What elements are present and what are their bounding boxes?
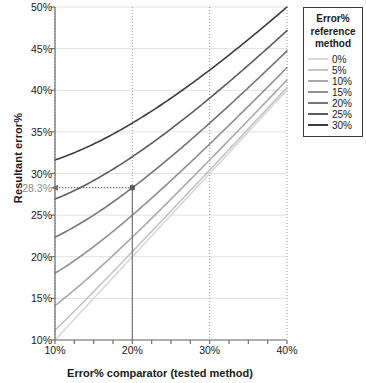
chart-root: Resultant error% Error% comparator (test… [0,0,366,383]
y-axis-tick-label: 45% [0,44,52,54]
legend-title-line-3: method [307,38,359,51]
legend-title-line-1: Error% [307,13,359,26]
series-line-20pct [55,51,287,237]
legend-item-label: 25% [332,109,352,120]
legend-item: 30% [307,120,359,131]
x-axis-tick-label: 20% [112,344,152,356]
y-axis-tick-label: 30% [0,169,52,179]
legend-item-label: 15% [332,87,352,98]
y-axis-tick-label: 40% [0,85,52,95]
legend-title: Error% reference method [307,13,359,51]
x-axis-tick-label: 40% [267,344,307,356]
legend-item: 10% [307,76,359,87]
legend-swatch-line-icon [308,69,328,71]
y-axis-tick-label: 50% [0,2,52,12]
x-axis-tick-label: 30% [190,344,230,356]
legend-swatch-line-icon [308,58,328,60]
legend-item-label: 0% [332,54,346,65]
series-line-5pct [55,88,287,331]
y-axis-tick-label: 15% [0,293,52,303]
legend-item: 5% [307,65,359,76]
legend-item: 25% [307,109,359,120]
legend-swatch-line-icon [308,80,328,82]
legend-item-label: 5% [332,65,346,76]
x-axis-title: Error% comparator (tested method) [30,367,290,379]
legend-item: 0% [307,54,359,65]
annotation-point-marker [130,185,135,190]
legend-item-label: 20% [332,98,352,109]
annotation-value-label: 28.3% [0,183,52,193]
legend-box: Error% reference method 0%5%10%15%20%25%… [303,7,363,137]
legend-item: 20% [307,98,359,109]
legend-item-label: 30% [332,120,352,131]
y-axis-tick-label: 20% [0,252,52,262]
legend-swatch-line-icon [308,102,328,104]
legend-swatch-line-icon [308,91,328,93]
x-axis-tick-label: 10% [35,344,75,356]
series-line-10pct [55,80,287,306]
y-axis-tick-label: 35% [0,127,52,137]
y-axis-title: Resultant error% [12,88,24,228]
legend-title-line-2: reference [307,26,359,39]
legend-swatch-line-icon [308,113,328,115]
legend-items: 0%5%10%15%20%25%30% [307,54,359,131]
legend-item: 15% [307,87,359,98]
legend-item-label: 10% [332,76,352,87]
legend-swatch-line-icon [308,124,328,126]
y-axis-tick-label: 25% [0,210,52,220]
